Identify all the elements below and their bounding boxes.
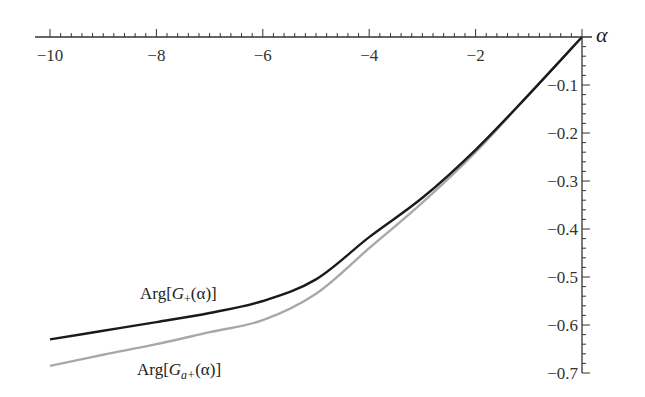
y-tick-label: −0.4 (547, 220, 578, 239)
curve-label-g-plus: Arg[G+(α)] (140, 284, 217, 306)
y-tick-label: −0.5 (547, 268, 578, 287)
x-tick-label: −2 (467, 46, 485, 65)
y-tick-label: −0.2 (547, 124, 578, 143)
x-tick-label: −8 (147, 46, 165, 65)
y-tick-label: −0.6 (547, 316, 578, 335)
y-tick-label: −0.3 (547, 172, 578, 191)
y-tick-label: −0.1 (547, 76, 578, 95)
x-tick-label: −10 (37, 46, 64, 65)
curves (50, 37, 582, 366)
curve-label-g-a-plus: Arg[Ga+(α)] (137, 360, 221, 382)
series-line (50, 37, 582, 366)
chart-canvas: −10−8−6−4−2−0.1−0.2−0.3−0.4−0.5−0.6−0.7 … (0, 0, 645, 397)
x-tick-label: −4 (360, 46, 379, 65)
x-tick-label: −6 (254, 46, 272, 65)
x-axis-label: α (596, 22, 608, 47)
axes: −10−8−6−4−2−0.1−0.2−0.3−0.4−0.5−0.6−0.7 (35, 29, 592, 383)
y-tick-label: −0.7 (547, 364, 578, 383)
